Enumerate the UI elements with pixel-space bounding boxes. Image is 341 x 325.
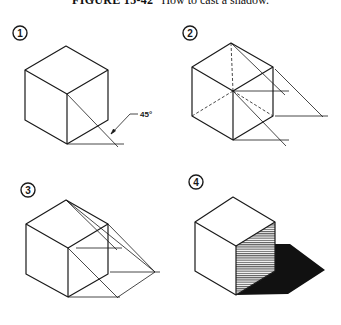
step-3-panel: 3 — [21, 183, 160, 298]
shadow-construction-3 — [66, 200, 160, 298]
cube-3 — [26, 200, 108, 297]
step-3-badge: 3 — [21, 183, 35, 197]
step-1-badge: 1 — [13, 26, 27, 40]
step-4-panel: 4 — [189, 175, 325, 295]
shadow-diagram: 1 45° 2 — [0, 0, 341, 325]
step-4-number: 4 — [193, 177, 199, 188]
step-2-badge: 2 — [183, 26, 197, 40]
step-1-panel: 1 45° — [13, 26, 152, 147]
step-3-number: 3 — [25, 185, 31, 196]
cube-1 — [25, 46, 108, 144]
step-1-number: 1 — [17, 28, 23, 39]
step-2-panel: 2 — [183, 26, 328, 146]
shadow-construction-2 — [231, 43, 328, 146]
step-4-badge: 4 — [189, 175, 203, 189]
step-2-number: 2 — [187, 28, 193, 39]
angle-label: 45° — [140, 110, 152, 119]
shadow-construction-1 — [67, 94, 138, 147]
